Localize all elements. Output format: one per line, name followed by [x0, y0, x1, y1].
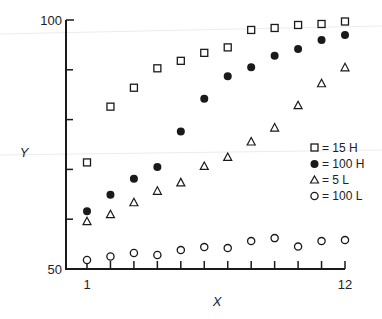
series-15h: [84, 18, 349, 166]
data-point: [177, 128, 185, 136]
data-point: [130, 249, 137, 256]
data-point: [106, 191, 114, 199]
data-point: [294, 243, 301, 250]
y-ticks: [66, 70, 73, 219]
data-point: [201, 49, 208, 56]
data-point: [248, 26, 255, 33]
data-point: [130, 198, 138, 206]
data-point: [318, 36, 326, 44]
data-point: [107, 103, 114, 110]
data-point: [153, 187, 161, 195]
data-point: [83, 207, 91, 215]
data-point: [295, 21, 302, 28]
data-point: [318, 79, 326, 87]
y-axis-label: Y: [20, 145, 30, 160]
data-point: [271, 124, 279, 131]
legend-label: = 100 L: [322, 189, 363, 203]
data-point: [248, 238, 255, 245]
data-point: [200, 95, 208, 103]
data-point: [271, 24, 278, 31]
data-point: [271, 52, 279, 60]
data-point: [341, 31, 349, 39]
legend-item-15h: = 15 H: [311, 141, 358, 155]
data-points: [83, 18, 349, 264]
data-point: [107, 253, 114, 260]
data-point: [294, 45, 302, 53]
data-point: [106, 210, 114, 218]
data-point: [342, 18, 349, 25]
data-point: [201, 243, 208, 250]
x-tick-label-last: 12: [338, 277, 352, 292]
data-point: [154, 65, 161, 72]
series-100l: [83, 235, 348, 264]
data-point: [341, 63, 349, 70]
open-square-icon: [311, 144, 318, 151]
data-point: [83, 217, 91, 225]
data-point: [318, 20, 325, 27]
legend-item-5l: = 5 L: [311, 173, 350, 187]
x-ticks: [87, 261, 345, 269]
data-point: [84, 159, 91, 166]
series-5l: [83, 63, 349, 224]
data-point: [177, 246, 184, 253]
y-tick-label-bottom: 50: [48, 262, 62, 277]
data-point: [247, 138, 255, 146]
filled-circle-icon: [311, 160, 319, 168]
data-point: [154, 251, 161, 258]
data-point: [177, 57, 184, 64]
open-circle-icon: [311, 192, 318, 199]
data-point: [83, 256, 90, 263]
legend-item-100l: = 100 L: [311, 189, 363, 203]
data-point: [177, 178, 185, 186]
data-point: [318, 238, 325, 245]
data-point: [153, 163, 161, 171]
series-100h: [83, 31, 349, 215]
legend-label: = 100 H: [322, 157, 364, 171]
legend: = 15 H = 100 H = 5 L = 100 L: [311, 141, 365, 203]
axes: [66, 20, 345, 269]
scatter-chart: 100 50 1 12 Y X = 15 H = 100 H = 5 L = 1…: [0, 0, 382, 319]
x-axis-label: X: [212, 294, 223, 309]
data-point: [271, 235, 278, 242]
data-point: [130, 84, 137, 91]
data-point: [224, 244, 231, 251]
axis-lines: [66, 20, 345, 269]
data-point: [130, 175, 138, 183]
open-triangle-icon: [311, 176, 319, 183]
data-point: [200, 162, 208, 170]
legend-item-100h: = 100 H: [311, 157, 365, 171]
y-tick-label-top: 100: [40, 13, 62, 28]
data-point: [247, 63, 255, 71]
data-point: [294, 101, 302, 109]
data-point: [224, 44, 231, 51]
data-point: [224, 153, 232, 161]
data-point: [224, 72, 232, 80]
data-point: [341, 237, 348, 244]
legend-label: = 15 H: [322, 141, 358, 155]
legend-label: = 5 L: [322, 173, 349, 187]
x-tick-label-first: 1: [83, 277, 90, 292]
